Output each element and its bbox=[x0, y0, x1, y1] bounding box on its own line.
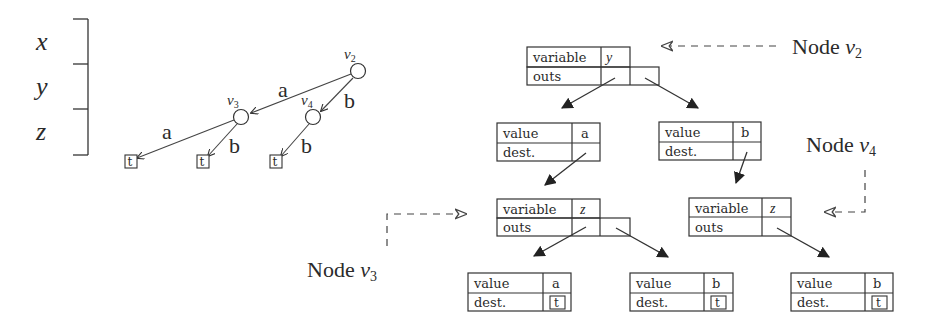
pointer-arrow bbox=[562, 78, 615, 108]
node-label-v3: v3 bbox=[227, 92, 239, 110]
node-v2-circle bbox=[351, 64, 366, 79]
bdd-tree: a b a b b v2 v3 v4 t t t bbox=[125, 46, 366, 169]
svg-text:dest.: dest. bbox=[474, 295, 506, 310]
edge-label-b: b bbox=[229, 133, 240, 158]
svg-text:dest.: dest. bbox=[665, 144, 697, 159]
svg-text:a: a bbox=[581, 126, 589, 141]
level-label-z: z bbox=[35, 117, 46, 146]
edge-v3-t1 bbox=[137, 120, 234, 158]
svg-text:value: value bbox=[635, 276, 672, 291]
callout-node-v2: Node v2 bbox=[662, 34, 862, 61]
svg-text:value: value bbox=[473, 276, 510, 291]
record-node-v2: variable y outs bbox=[527, 47, 659, 85]
record-field-label: variable bbox=[532, 50, 587, 65]
dashed-arrow bbox=[387, 214, 466, 246]
level-label-x: x bbox=[35, 27, 48, 56]
svg-text:value: value bbox=[664, 125, 701, 140]
record-leaf-b: value b dest. t bbox=[791, 273, 893, 311]
svg-text:t: t bbox=[715, 296, 720, 310]
node-label-v4: v4 bbox=[301, 92, 313, 110]
callout-label: Node v3 bbox=[307, 257, 377, 284]
svg-text:b: b bbox=[712, 276, 720, 291]
terminal-t2: t bbox=[197, 155, 209, 169]
node-label-v2: v2 bbox=[344, 46, 356, 64]
terminal-t3: t bbox=[270, 155, 282, 169]
svg-text:value: value bbox=[502, 126, 539, 141]
svg-text:z: z bbox=[579, 202, 586, 217]
record-value-a: value a dest. bbox=[497, 123, 600, 161]
bdd-diagram: x y z a b a b b v2 v3 v4 t t bbox=[0, 0, 935, 333]
pointer-arrow bbox=[645, 78, 698, 108]
pointer-arrow bbox=[545, 153, 586, 185]
record-field-value: y bbox=[604, 50, 613, 65]
svg-text:value: value bbox=[796, 276, 833, 291]
svg-text:a: a bbox=[552, 276, 560, 291]
node-v3-circle bbox=[234, 110, 249, 125]
pointer-arrow bbox=[736, 152, 747, 183]
callout-label: Node v2 bbox=[792, 34, 862, 61]
edge-label-b: b bbox=[344, 88, 355, 113]
level-label-y: y bbox=[33, 72, 48, 101]
record-leaf-a: value a dest. t bbox=[468, 273, 571, 311]
callout-label: Node v4 bbox=[806, 132, 876, 159]
svg-text:outs: outs bbox=[503, 220, 531, 235]
node-v4-circle bbox=[306, 110, 321, 125]
svg-text:dest.: dest. bbox=[636, 295, 668, 310]
pointer-arrow bbox=[616, 228, 668, 257]
terminal-t1: t bbox=[125, 155, 137, 169]
svg-text:t: t bbox=[273, 155, 278, 169]
svg-text:t: t bbox=[876, 296, 881, 310]
callout-node-v4: Node v4 bbox=[806, 132, 876, 212]
dashed-arrow bbox=[825, 170, 865, 212]
pointer-arrow bbox=[534, 227, 586, 256]
edge-label-b: b bbox=[301, 133, 312, 158]
svg-text:variable: variable bbox=[502, 202, 557, 217]
svg-text:variable: variable bbox=[694, 201, 749, 216]
svg-text:t: t bbox=[200, 155, 205, 169]
record-leaf-b: value b dest. t bbox=[630, 273, 733, 311]
edge-label-a: a bbox=[278, 77, 288, 102]
record-field-label: outs bbox=[533, 69, 561, 84]
record-node-v4: variable z outs bbox=[689, 198, 791, 236]
svg-text:t: t bbox=[554, 296, 559, 310]
svg-text:dest.: dest. bbox=[797, 295, 829, 310]
svg-text:b: b bbox=[873, 276, 881, 291]
pointer-arrow bbox=[777, 228, 829, 257]
callout-node-v3: Node v3 bbox=[307, 214, 466, 284]
record-node-v3: variable z outs bbox=[497, 199, 630, 236]
svg-text:outs: outs bbox=[695, 220, 723, 235]
edge-label-a: a bbox=[162, 119, 172, 144]
svg-text:b: b bbox=[741, 125, 749, 140]
svg-text:dest.: dest. bbox=[503, 145, 535, 160]
svg-text:z: z bbox=[769, 201, 776, 216]
level-bracket: x y z bbox=[33, 19, 88, 155]
svg-text:t: t bbox=[128, 155, 133, 169]
